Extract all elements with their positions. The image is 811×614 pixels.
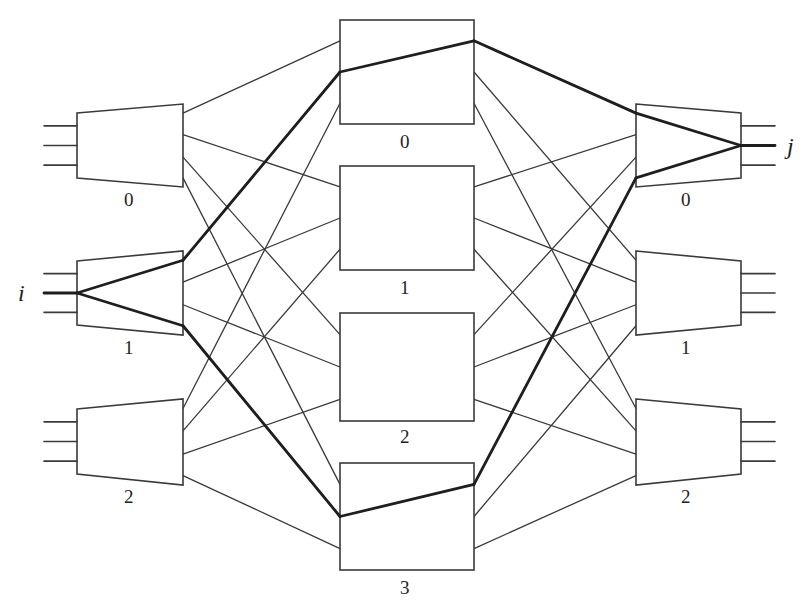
middle-label-0: 0 xyxy=(400,131,410,152)
ingress-switch-2 xyxy=(77,399,183,485)
clos-network-diagram: 0 1 2 0 1 2 3 0 1 2 i j xyxy=(0,0,811,614)
middle-switch-0 xyxy=(340,20,474,124)
middle-label-2: 2 xyxy=(400,426,410,447)
ingress-label-2: 2 xyxy=(124,486,134,507)
wire-ingress2-middle1 xyxy=(183,249,340,431)
wire-middle0-egress1 xyxy=(474,72,636,260)
wire-middle1-egress0 xyxy=(474,135,636,187)
middle-label-1: 1 xyxy=(400,277,410,298)
egress-label-2: 2 xyxy=(681,486,691,507)
middle-switch-1 xyxy=(340,166,474,270)
output-endpoint-label: j xyxy=(784,133,794,159)
middle-switch-2 xyxy=(340,313,474,421)
wire-middle3-egress1 xyxy=(474,326,636,517)
wire-middle2-egress0 xyxy=(474,157,636,334)
wire-ingress0-middle2 xyxy=(183,157,340,334)
wire-middle2-egress2 xyxy=(474,399,636,454)
egress-switch-1 xyxy=(636,251,741,335)
egress-switch-2 xyxy=(636,399,741,485)
ingress-label-1: 1 xyxy=(124,337,134,358)
wire-ingress2-middle0 xyxy=(183,103,340,408)
ingress-label-0: 0 xyxy=(124,189,134,210)
middle-label-3: 3 xyxy=(400,577,410,598)
egress-switch-0 xyxy=(636,104,741,187)
wire-ingress1-middle2 xyxy=(183,305,340,367)
bold-L1-to-M0 xyxy=(183,72,340,260)
wire-middle1-egress2 xyxy=(474,249,636,431)
ingress-switch-1 xyxy=(77,251,183,335)
egress-label-1: 1 xyxy=(681,337,691,358)
wire-ingress0-middle1 xyxy=(183,135,340,187)
bold-L1-to-M3 xyxy=(183,326,340,517)
wire-middle3-egress2 xyxy=(474,476,636,549)
wire-middle0-egress2 xyxy=(474,103,636,408)
input-endpoint-label: i xyxy=(18,280,25,306)
wire-middle2-egress1 xyxy=(474,305,636,367)
wire-middle1-egress1 xyxy=(474,218,636,282)
wire-ingress0-middle3 xyxy=(183,178,340,485)
bold-M0-to-R0 xyxy=(474,41,636,113)
switch-modules xyxy=(44,20,775,570)
ingress-switch-0 xyxy=(77,104,183,187)
bold-M3-to-R0 xyxy=(474,178,636,485)
wire-ingress2-middle2 xyxy=(183,399,340,454)
egress-label-0: 0 xyxy=(681,189,691,210)
wire-ingress1-middle1 xyxy=(183,218,340,282)
middle-switch-3 xyxy=(340,463,474,570)
